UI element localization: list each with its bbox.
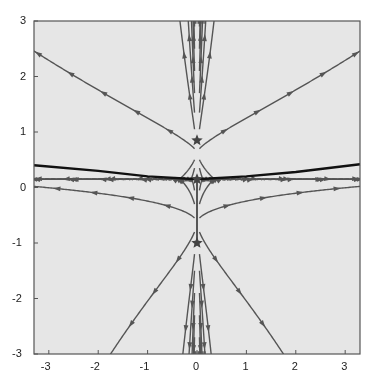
y-tick-label: 1 — [20, 125, 26, 137]
y-tick-label: -3 — [12, 347, 22, 359]
y-tick-label: 0 — [20, 181, 26, 193]
x-tick-label: -3 — [41, 360, 51, 372]
x-tick-label: -2 — [90, 360, 100, 372]
x-tick-label: 3 — [341, 360, 347, 372]
x-tick-label: -1 — [140, 360, 150, 372]
y-tick-label: -2 — [12, 292, 22, 304]
y-tick-label: 3 — [20, 14, 26, 26]
x-tick-label: 1 — [242, 360, 248, 372]
stream-plot-canvas — [0, 0, 380, 384]
x-tick-label: 0 — [193, 360, 199, 372]
y-tick-label: -1 — [12, 236, 22, 248]
x-tick-label: 2 — [292, 360, 298, 372]
y-tick-label: 2 — [20, 70, 26, 82]
